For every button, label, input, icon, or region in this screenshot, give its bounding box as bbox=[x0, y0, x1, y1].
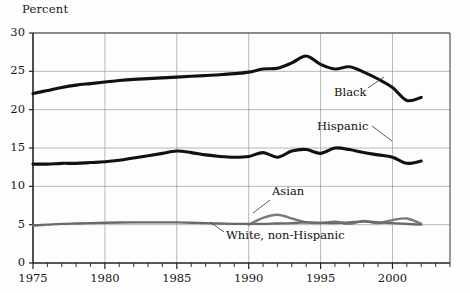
line-chart-canvas bbox=[0, 0, 470, 293]
series-annotation-black: Black bbox=[334, 85, 366, 99]
chart-figure: Percent 05101520253019751980198519901995… bbox=[0, 0, 470, 293]
annotation-leader-line bbox=[372, 126, 392, 141]
y-tick-label: 20 bbox=[1, 102, 25, 116]
x-tick-label: 1990 bbox=[227, 271, 271, 285]
series-annotation-asian: Asian bbox=[272, 184, 304, 198]
x-tick-label: 2000 bbox=[370, 271, 414, 285]
series-annotation-hispanic: Hispanic bbox=[317, 119, 368, 133]
x-tick-label: 1985 bbox=[155, 271, 199, 285]
x-axis-ticks bbox=[33, 263, 450, 269]
y-tick-label: 30 bbox=[1, 25, 25, 39]
y-tick-label: 10 bbox=[1, 178, 25, 192]
gridlines-horizontal bbox=[33, 33, 450, 225]
annotation-leader-line bbox=[253, 200, 270, 213]
series-line-hispanic bbox=[33, 148, 421, 164]
x-tick-label: 1980 bbox=[83, 271, 127, 285]
series-annotation-white-non-hispanic: White, non-Hispanic bbox=[226, 228, 345, 242]
y-tick-label: 15 bbox=[1, 140, 25, 154]
y-tick-label: 5 bbox=[1, 217, 25, 231]
data-series-group bbox=[33, 56, 421, 225]
y-tick-label: 25 bbox=[1, 63, 25, 77]
x-tick-label: 1995 bbox=[299, 271, 343, 285]
x-tick-label: 1975 bbox=[11, 271, 55, 285]
y-tick-label: 0 bbox=[1, 255, 25, 269]
annotation-leaders bbox=[210, 77, 392, 232]
